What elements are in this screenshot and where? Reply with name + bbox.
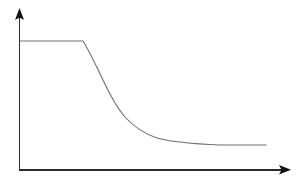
chart-background (0, 0, 302, 185)
chart-figure (0, 0, 302, 185)
plot-canvas (0, 0, 302, 185)
